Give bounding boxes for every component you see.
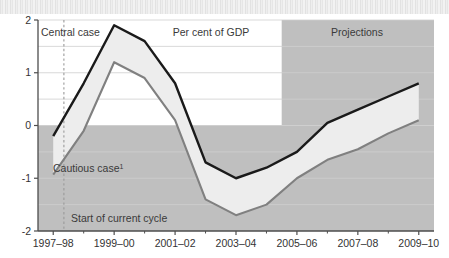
y-axis-tick-label: -2 [22, 225, 31, 237]
annotation-cautious-case: Cautious case1 [53, 162, 124, 174]
annotation-cautious-case-label: Cautious case [53, 162, 120, 174]
annotation-cautious-case-footnote-marker: 1 [120, 163, 124, 170]
x-axis-tick-label: 1997–98 [33, 237, 74, 249]
annotation-cycle-start: Start of current cycle [71, 212, 167, 224]
x-axis-tick-label: 2007–08 [337, 237, 378, 249]
x-axis-tick-label: 2005–06 [276, 237, 317, 249]
y-axis-tick-label: 2 [25, 14, 31, 26]
x-axis-labels: 1997–981999–002001–022003–042005–062007–… [33, 237, 440, 249]
x-axis-tick-label: 1999–00 [94, 237, 135, 249]
y-axis-tick-label: 1 [25, 66, 31, 78]
fiscal-balance-chart: 210-1-2 1997–981999–002001–022003–042005… [0, 0, 449, 258]
annotation-units: Per cent of GDP [173, 26, 249, 38]
annotation-central-case: Central case [41, 26, 100, 38]
y-axis-ticks: 210-1-2 [22, 14, 38, 237]
x-axis-tick-label: 2001–02 [155, 237, 196, 249]
x-axis-tick-label: 2009–10 [398, 237, 439, 249]
y-axis-tick-label: 0 [25, 119, 31, 131]
x-axis-tick-label: 2003–04 [216, 237, 257, 249]
chart-page: 210-1-2 1997–981999–002001–022003–042005… [0, 0, 449, 258]
annotation-projections: Projections [331, 26, 383, 38]
y-axis-tick-label: -1 [22, 172, 31, 184]
